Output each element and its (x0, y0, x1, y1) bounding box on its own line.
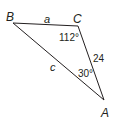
vertex-label-a: A (100, 106, 109, 120)
vertex-label-b: B (6, 10, 14, 24)
vertex-label-c: C (73, 12, 82, 26)
triangle-diagram: B C A a 24 c 112° 30° (0, 0, 113, 121)
side-label-24: 24 (93, 53, 105, 64)
side-label-c: c (50, 61, 56, 73)
angle-label-c: 112° (59, 32, 79, 43)
angle-label-a: 30° (78, 68, 93, 79)
side-label-a: a (44, 13, 50, 25)
